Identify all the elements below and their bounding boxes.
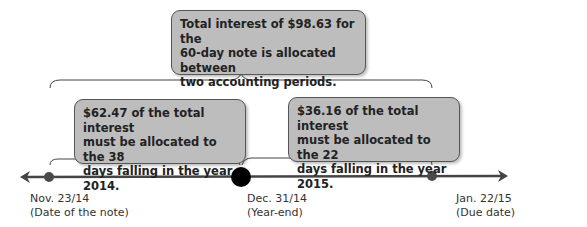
total-interest-callout: Total interest of $98.63 for the 60-day … — [171, 10, 366, 75]
interest-2014-callout: $62.47 of the total interest must be all… — [74, 99, 246, 164]
year-end-dot — [231, 167, 251, 187]
year-end-label: Dec. 31/14 (Year-end) — [247, 192, 307, 220]
interest-2015-callout: $36.16 of the total interest must be all… — [288, 97, 460, 162]
note-date-label: Nov. 23/14 (Date of the note) — [30, 192, 129, 220]
start-date-dot — [44, 172, 54, 182]
due-date-label: Jan. 22/15 (Due date) — [456, 192, 515, 220]
interest-allocation-timeline: Total interest of $98.63 for the 60-day … — [0, 0, 587, 227]
